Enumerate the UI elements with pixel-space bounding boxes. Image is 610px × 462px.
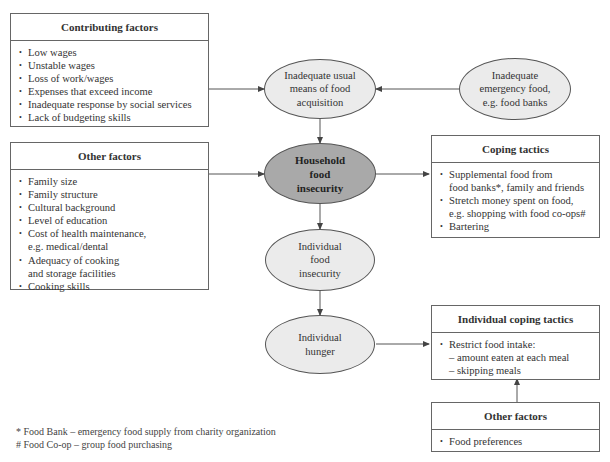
footnote-food-coop: # Food Co-op – group food purchasing <box>16 438 276 451</box>
node-line: e.g. food banks <box>480 96 551 109</box>
node-line: food <box>298 253 342 266</box>
contributing-factors-list: Low wages Unstable wages Loss of work/wa… <box>11 41 208 129</box>
node-inadequate-usual-means: Inadequate usual means of food acquisiti… <box>264 59 376 119</box>
other-factors-food-list: Food preferences <box>432 430 599 452</box>
list-item: Cooking skills <box>19 280 202 293</box>
other-factors-food-box: Other factors Food preferences <box>431 402 600 452</box>
list-item-line: Restrict food intake: <box>449 338 593 351</box>
node-line: means of food <box>284 82 355 95</box>
list-item: Low wages <box>19 46 202 59</box>
list-item: Supplemental food fromfood banks*, famil… <box>440 168 593 194</box>
node-line: Inadequate usual <box>284 69 355 82</box>
list-item: Lack of budgeting skills <box>19 111 202 124</box>
node-line: insecurity <box>295 181 345 195</box>
individual-coping-tactics-title: Individual coping tactics <box>432 306 599 333</box>
coping-tactics-title: Coping tactics <box>432 136 599 163</box>
node-household-food-insecurity: Household food insecurity <box>264 143 376 204</box>
other-factors-list: Family size Family structure Cultural ba… <box>11 170 208 297</box>
list-item: Family size <box>19 175 202 188</box>
list-item: Adequacy of cookingand storage facilitie… <box>19 254 202 280</box>
list-item-line: Cost of health maintenance, <box>28 227 202 240</box>
list-item: Food preferences <box>440 435 593 448</box>
list-item-line: food banks*, family and friends <box>449 181 593 194</box>
list-item-subline: – skipping meals <box>449 364 593 377</box>
list-item: Inadequate response by social services <box>19 98 202 111</box>
node-line: hunger <box>298 345 342 358</box>
other-factors-title: Other factors <box>11 143 208 170</box>
node-individual-hunger: Individual hunger <box>265 315 375 374</box>
list-item-subline: – amount eaten at each meal <box>449 351 593 364</box>
list-item: Cultural background <box>19 201 202 214</box>
list-item-line: and storage facilities <box>28 267 202 280</box>
contributing-factors-title: Contributing factors <box>11 14 208 41</box>
list-item: Expenses that exceed income <box>19 85 202 98</box>
node-individual-food-insecurity: Individual food insecurity <box>265 229 375 291</box>
node-line: Individual <box>298 331 342 344</box>
list-item: Stretch money spent on food,e.g. shoppin… <box>440 194 593 220</box>
node-line: Individual <box>298 240 342 253</box>
node-inadequate-emergency-food: Inadequate emergency food, e.g. food ban… <box>459 58 571 120</box>
list-item-line: e.g. medical/dental <box>28 240 202 253</box>
list-item: Loss of work/wages <box>19 72 202 85</box>
list-item: Unstable wages <box>19 59 202 72</box>
list-item-line: Adequacy of cooking <box>28 254 202 267</box>
footnote-food-bank: * Food Bank – emergency food supply from… <box>16 425 276 438</box>
contributing-factors-box: Contributing factors Low wages Unstable … <box>10 13 209 127</box>
node-line: food <box>295 167 345 181</box>
node-line: Inadequate <box>480 69 551 82</box>
individual-coping-list: Restrict food intake:– amount eaten at e… <box>432 333 599 381</box>
list-item: Bartering <box>440 220 593 233</box>
list-item: Level of education <box>19 214 202 227</box>
list-item-line: Stretch money spent on food, <box>449 194 593 207</box>
list-item-line: e.g. shopping with food co-ops# <box>449 207 593 220</box>
list-item-line: Supplemental food from <box>449 168 593 181</box>
footnotes: * Food Bank – emergency food supply from… <box>16 425 276 451</box>
node-line: emergency food, <box>480 82 551 95</box>
other-factors-box: Other factors Family size Family structu… <box>10 142 209 290</box>
node-line: insecurity <box>298 267 342 280</box>
coping-tactics-box: Coping tactics Supplemental food fromfoo… <box>431 135 600 238</box>
other-factors-food-title: Other factors <box>432 403 599 430</box>
list-item: Family structure <box>19 188 202 201</box>
list-item: Restrict food intake:– amount eaten at e… <box>440 338 593 377</box>
node-line: acquisition <box>284 96 355 109</box>
list-item: Cost of health maintenance,e.g. medical/… <box>19 227 202 253</box>
coping-tactics-list: Supplemental food fromfood banks*, famil… <box>432 163 599 237</box>
individual-coping-tactics-box: Individual coping tactics Restrict food … <box>431 305 600 380</box>
node-line: Household <box>295 153 345 167</box>
